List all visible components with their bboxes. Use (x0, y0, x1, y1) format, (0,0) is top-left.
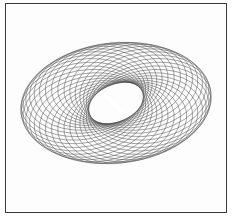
ellipse-curve (45, 73, 181, 173)
center-slit (100, 91, 127, 116)
ellipse-curve (15, 57, 151, 157)
ellipse-curve (51, 33, 187, 133)
torus-figure (0, 0, 235, 218)
ellipse-curve (81, 49, 217, 149)
